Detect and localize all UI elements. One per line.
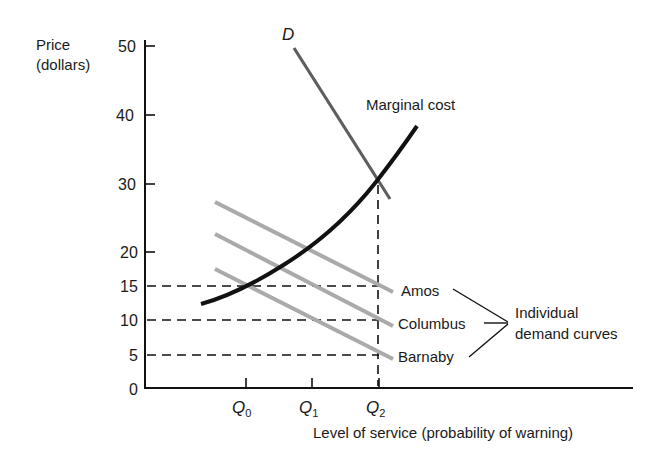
y-axis-title-line2: (dollars): [36, 56, 90, 73]
y-tick-20: 20: [120, 244, 138, 261]
bracket-label-line1: Individual: [515, 304, 578, 321]
y-tick-40: 40: [116, 107, 134, 124]
x-tick-q2: Q2: [366, 398, 385, 419]
y-tick-0: 0: [129, 381, 138, 398]
d-label: D: [282, 25, 294, 44]
price-service-chart: Price (dollars) 50 40 30 20 15 10 5 0 Q0…: [0, 0, 664, 455]
marginal-cost-label: Marginal cost: [366, 96, 456, 113]
y-tick-5: 5: [129, 347, 138, 364]
x-ticks: [246, 378, 379, 388]
y-tick-30: 30: [118, 176, 136, 193]
y-tick-15: 15: [120, 278, 138, 295]
barnaby-label: Barnaby: [398, 348, 454, 365]
y-tick-50: 50: [118, 38, 136, 55]
bracket-label-line2: demand curves: [515, 325, 618, 342]
y-tick-10: 10: [120, 312, 138, 329]
x-tick-q0: Q0: [232, 398, 251, 419]
aggregate-demand-curve: [294, 48, 390, 199]
columbus-label: Columbus: [398, 315, 466, 332]
x-axis-title: Level of service (probability of warning…: [313, 424, 573, 441]
amos-label: Amos: [401, 282, 439, 299]
y-ticks: [145, 46, 155, 252]
y-axis-title-line1: Price: [36, 36, 70, 53]
x-tick-q1: Q1: [299, 398, 318, 419]
